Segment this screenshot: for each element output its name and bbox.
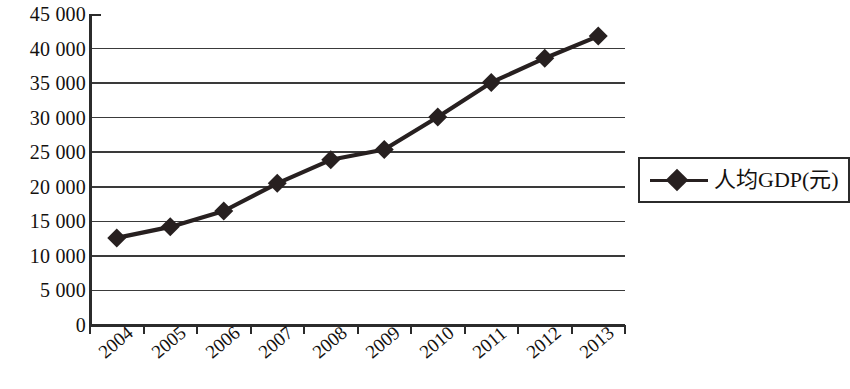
legend-diamond-marker-icon bbox=[650, 169, 708, 191]
x-axis-tick-label: 2011 bbox=[469, 323, 510, 362]
chart-legend: 人均GDP(元) bbox=[638, 157, 850, 203]
legend-label-per-capita-gdp: 人均GDP(元) bbox=[714, 168, 839, 192]
x-axis-tick-label: 2007 bbox=[255, 323, 296, 362]
x-axis-tick-label: 2009 bbox=[362, 323, 403, 362]
x-axis-tick-label: 2010 bbox=[416, 323, 457, 362]
x-axis-tick-label: 2008 bbox=[309, 323, 350, 362]
legend-diamond-glyph bbox=[666, 169, 689, 192]
x-axis-tick-label: 2006 bbox=[202, 323, 243, 362]
x-axis-tick-label: 2004 bbox=[95, 323, 136, 362]
x-axis-tick-label: 2013 bbox=[576, 323, 617, 362]
x-axis-tick-label: 2012 bbox=[523, 323, 564, 362]
x-axis-tick-label: 2005 bbox=[148, 323, 189, 362]
